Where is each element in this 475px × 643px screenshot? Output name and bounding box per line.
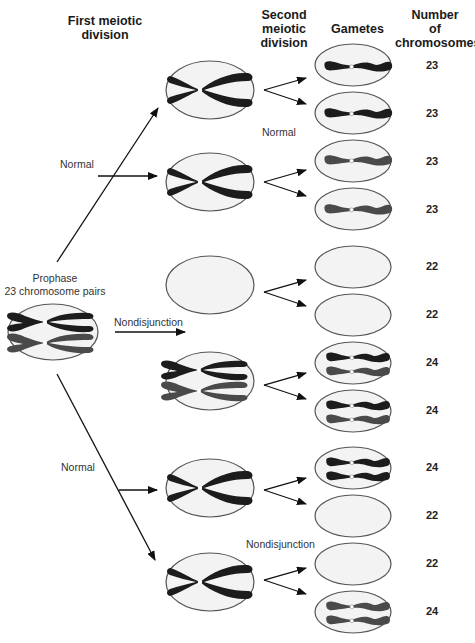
fork-arrows [264,78,306,594]
first-division-cell-5 [166,459,254,517]
first-division-cell-6 [166,553,254,611]
arrow-normal-lower [57,374,155,560]
first-division-cell-1 [166,61,254,119]
gamete-2 [315,92,392,134]
gamete-10-empty [315,495,391,537]
gamete-5-empty [315,246,391,288]
gamete-1 [315,44,392,86]
gamete-9-double [315,447,391,489]
gamete-4 [315,188,392,230]
meiosis-diagram [0,0,475,643]
arrow-normal-upper [57,108,158,262]
gamete-6-empty [315,294,391,336]
gamete-11-empty [315,543,391,585]
first-division-cell-3-empty [166,256,254,314]
gamete-7-double [315,342,391,384]
first-division-cell-2 [166,153,254,211]
gamete-3 [315,140,392,182]
gamete-12-double [315,591,391,633]
first-division-cell-4-double [161,352,254,410]
gamete-8-double [315,390,391,432]
prophase-cell [7,304,98,360]
